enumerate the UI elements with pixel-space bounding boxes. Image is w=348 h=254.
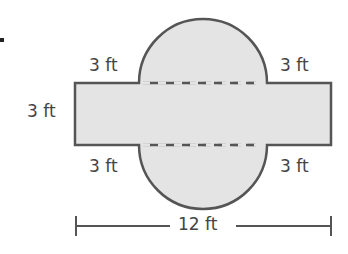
composite-figure — [0, 0, 348, 254]
label-top-right: 3 ft — [280, 57, 309, 74]
label-top-left: 3 ft — [89, 57, 118, 74]
label-left-height: 3 ft — [27, 103, 56, 120]
label-bottom-left: 3 ft — [89, 158, 118, 175]
composite-shape — [75, 19, 331, 209]
label-bottom-right: 3 ft — [280, 158, 309, 175]
label-total-width: 12 ft — [178, 216, 217, 233]
problem-marker — [0, 38, 4, 42]
